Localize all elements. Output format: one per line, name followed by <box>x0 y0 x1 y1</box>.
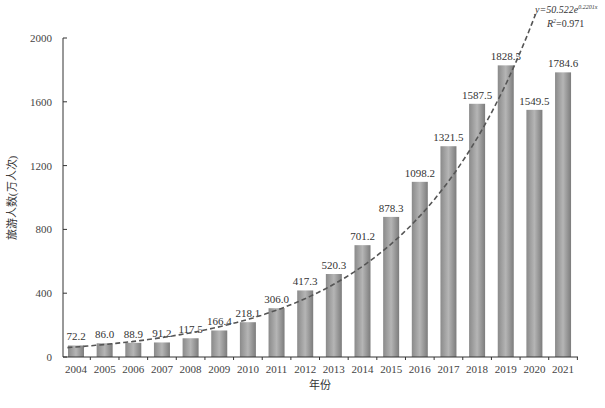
value-label-2007: 91.2 <box>152 327 171 339</box>
bar-2020 <box>526 110 542 357</box>
value-label-2004: 72.2 <box>66 330 85 342</box>
bar-2012 <box>297 290 313 357</box>
bar-2007 <box>154 342 170 357</box>
x-tick-label-2012: 2012 <box>294 363 316 375</box>
x-tick-label-2017: 2017 <box>437 363 460 375</box>
value-label-2016: 1098.2 <box>405 167 435 179</box>
y-tick-label-1200: 1200 <box>30 160 53 172</box>
y-tick-label-400: 400 <box>36 287 53 299</box>
x-ticks-group: 2004200520062007200820092010201120122013… <box>65 357 577 375</box>
value-label-2013: 520.3 <box>321 259 346 271</box>
x-tick-label-2005: 2005 <box>94 363 117 375</box>
x-tick-label-2010: 2010 <box>237 363 260 375</box>
bar-2013 <box>326 274 342 357</box>
bar-2019 <box>498 65 514 357</box>
x-tick-label-2006: 2006 <box>122 363 145 375</box>
value-label-2020: 1549.5 <box>519 95 550 107</box>
value-label-2005: 86.0 <box>95 328 115 340</box>
value-label-2012: 417.3 <box>293 275 318 287</box>
x-tick-label-2018: 2018 <box>466 363 489 375</box>
bar-2014 <box>355 245 371 357</box>
bar-2018 <box>469 104 485 357</box>
x-tick-label-2014: 2014 <box>352 363 375 375</box>
value-label-2006: 88.9 <box>124 328 144 340</box>
value-label-2017: 1321.5 <box>433 131 464 143</box>
trend-r2: R2=0.971 <box>546 18 584 29</box>
x-tick-label-2011: 2011 <box>266 363 288 375</box>
y-axis-title: 旅游人数(万人次) <box>5 156 19 241</box>
value-label-2018: 1587.5 <box>462 89 493 101</box>
bar-2005 <box>97 343 113 357</box>
x-tick-label-2021: 2021 <box>552 363 574 375</box>
x-tick-label-2004: 2004 <box>65 363 88 375</box>
y-tick-label-0: 0 <box>47 351 53 363</box>
x-tick-label-2016: 2016 <box>409 363 432 375</box>
x-tick-label-2013: 2013 <box>323 363 346 375</box>
x-tick-label-2015: 2015 <box>380 363 403 375</box>
trend-equation: y=50.522e0.2201x <box>534 4 598 15</box>
bar-2010 <box>240 322 256 357</box>
bar-chart: 72.286.088.991.2117.5166.4218.1306.0417.… <box>0 0 605 408</box>
y-ticks-group: 0400800120016002000 <box>30 32 67 363</box>
x-tick-label-2008: 2008 <box>180 363 203 375</box>
bar-2008 <box>183 338 199 357</box>
x-tick-label-2007: 2007 <box>151 363 174 375</box>
value-label-2010: 218.1 <box>236 307 261 319</box>
y-tick-label-2000: 2000 <box>30 32 53 44</box>
bar-2006 <box>125 343 141 357</box>
value-label-2011: 306.0 <box>264 293 289 305</box>
bars-group <box>68 65 571 357</box>
bar-2011 <box>269 308 285 357</box>
bar-2016 <box>412 182 428 357</box>
x-tick-label-2019: 2019 <box>495 363 518 375</box>
x-axis-title: 年份 <box>309 378 331 391</box>
value-label-2015: 878.3 <box>379 202 404 214</box>
value-label-2014: 701.2 <box>350 230 375 242</box>
value-label-2009: 166.4 <box>207 315 232 327</box>
bar-2017 <box>440 146 456 357</box>
x-tick-label-2020: 2020 <box>523 363 546 375</box>
x-tick-label-2009: 2009 <box>208 363 231 375</box>
bar-2009 <box>211 330 227 357</box>
y-tick-label-800: 800 <box>36 223 53 235</box>
bar-2021 <box>555 72 571 357</box>
value-label-2021: 1784.6 <box>548 57 579 69</box>
y-tick-label-1600: 1600 <box>30 96 53 108</box>
